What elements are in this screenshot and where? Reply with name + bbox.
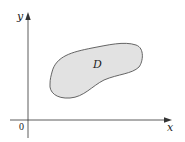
region-diagram: y x 0 D [0, 0, 185, 142]
y-axis-label: y [16, 10, 24, 23]
region-label: D [92, 58, 102, 71]
y-axis [25, 12, 30, 138]
y-axis-arrow-icon [25, 12, 30, 20]
x-axis-label: x [167, 121, 174, 134]
x-axis [10, 117, 172, 122]
origin-label: 0 [19, 121, 24, 132]
